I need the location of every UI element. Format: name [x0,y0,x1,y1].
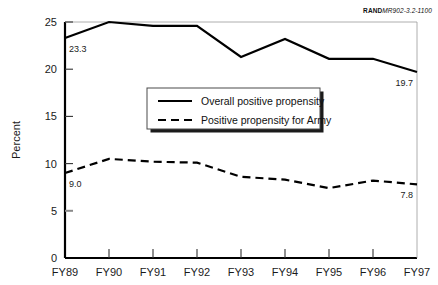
data-point-label: 7.8 [400,190,413,200]
y-axis-title: Percent [10,121,22,159]
chart-legend: Overall positive propensityPositive prop… [147,88,332,133]
line-chart-plot: Percent 23.319.79.07.8 FY89FY90FY91FY92F… [0,0,438,285]
y-axis-tick-label: 0 [51,252,57,264]
y-axis-tick-label: 15 [45,110,57,122]
x-axis-tick-label: FY93 [228,266,254,278]
data-point-label: 19.7 [395,78,413,88]
series-line [65,22,417,72]
x-axis-tick-label: FY95 [316,266,342,278]
x-axis-tick-label: FY89 [52,266,78,278]
y-axis-tick-label: 25 [45,16,57,28]
y-axis-tick-labels: 0510152025 [45,16,57,264]
y-axis-tick-label: 5 [51,205,57,217]
legend-item-label: Positive propensity for Army [201,114,332,126]
data-point-label: 23.3 [69,44,87,54]
x-axis-ticks [109,249,373,258]
x-axis-tick-label: FY94 [272,266,298,278]
data-point-label: 9.0 [69,179,82,189]
x-axis-tick-label: FY91 [140,266,166,278]
chart-figure: RANDMR902-3.2-1100 Percent 23.319.79.07.… [0,0,438,285]
y-axis-tick-label: 10 [45,158,57,170]
x-axis-tick-label: FY92 [184,266,210,278]
x-axis-tick-labels: FY89FY90FY91FY92FY93FY94FY95FY96FY97 [52,266,430,278]
legend-item-label: Overall positive propensity [201,95,325,107]
x-axis-tick-label: FY96 [360,266,386,278]
series-line [65,159,417,188]
x-axis-tick-label: FY90 [96,266,122,278]
y-axis-tick-label: 20 [45,63,57,75]
x-axis-tick-label: FY97 [404,266,430,278]
